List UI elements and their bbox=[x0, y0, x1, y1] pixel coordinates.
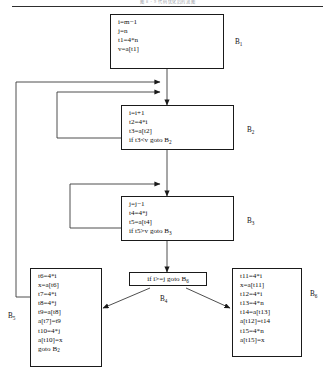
block-label-b6-sub: 6 bbox=[315, 293, 318, 299]
block-label-b6: B6 bbox=[310, 290, 317, 298]
b3-line-1: j=j−1 bbox=[129, 200, 229, 209]
block-label-b1-sub: 1 bbox=[240, 41, 243, 47]
edge-b4-b5 bbox=[103, 288, 150, 308]
basic-block-b1[interactable]: i=m−1 j=n t1=4*n v=a[t1] bbox=[110, 14, 224, 69]
b3-line-4-text: if t5>v goto B bbox=[129, 227, 169, 235]
block-label-b3: B3 bbox=[247, 217, 254, 225]
block-label-b2-sub: 2 bbox=[252, 129, 255, 135]
b3-line-2: t4=4*j bbox=[129, 209, 229, 218]
b5-line-5: t9=a[t8] bbox=[38, 308, 97, 317]
basic-block-b2[interactable]: i=i+1 t2=4*i t3=a[t2] if t3<v goto B2 bbox=[121, 105, 234, 150]
edge-b4-b6 bbox=[186, 288, 230, 308]
b6-line-2: x=a[t11] bbox=[240, 281, 297, 290]
b3-line-4: if t5>v goto B3 bbox=[129, 227, 229, 236]
b5-line-9: goto B2 bbox=[38, 345, 97, 354]
basic-block-b4[interactable]: if i>=j goto B6 bbox=[129, 272, 207, 286]
b5-line-7: t10=4*j bbox=[38, 327, 97, 336]
b3-line-4-sub: 3 bbox=[169, 230, 172, 236]
b2-line-1: i=i+1 bbox=[129, 109, 229, 118]
b6-line-5: t14=a[t13] bbox=[240, 308, 297, 317]
block-label-b3-sub: 3 bbox=[252, 220, 255, 226]
b2-line-2: t2=4*i bbox=[129, 118, 229, 127]
b5-line-8: a[t10]=x bbox=[38, 336, 97, 345]
b2-line-3: t3=a[t2] bbox=[129, 127, 229, 136]
b2-line-4-text: if t3<v goto B bbox=[129, 136, 169, 144]
b6-line-4: t13=4*n bbox=[240, 299, 297, 308]
block-label-b2: B2 bbox=[247, 126, 254, 134]
b1-line-4: v=a[t1] bbox=[118, 45, 219, 54]
b6-line-6: a[t12]=t14 bbox=[240, 317, 297, 326]
b5-line-1: t6=4*i bbox=[38, 272, 97, 281]
b1-line-2: j=n bbox=[118, 27, 219, 36]
b5-line-4: t8=4*j bbox=[38, 299, 97, 308]
block-label-b5: B5 bbox=[8, 312, 15, 320]
basic-block-b5[interactable]: t6=4*i x=a[t6] t7=4*i t8=4*j t9=a[t8] a[… bbox=[30, 268, 102, 367]
b5-line-6: a[t7]=t9 bbox=[38, 317, 97, 326]
b1-line-3: t1=4*n bbox=[118, 36, 219, 45]
b1-line-1: i=m−1 bbox=[118, 18, 219, 27]
b6-line-1: t11=4*i bbox=[240, 272, 297, 281]
flow-graph-page: 图 8 - 9 代码优化后的流图 bbox=[0, 0, 335, 379]
block-label-b4: B4 bbox=[160, 295, 167, 303]
b6-line-7: t15=4*n bbox=[240, 327, 297, 336]
b5-line-9-sub: 2 bbox=[57, 347, 60, 353]
b3-line-3: t5=a[t4] bbox=[129, 218, 229, 227]
basic-block-b3[interactable]: j=j−1 t4=4*j t5=a[t4] if t5>v goto B3 bbox=[121, 196, 234, 241]
b5-line-2: x=a[t6] bbox=[38, 281, 97, 290]
block-label-b5-sub: 5 bbox=[13, 315, 16, 321]
b6-line-3: t12=4*i bbox=[240, 290, 297, 299]
b4-line-1-text: if i>=j goto B bbox=[147, 275, 186, 283]
b2-line-4: if t3<v goto B2 bbox=[129, 136, 229, 145]
b2-line-4-sub: 2 bbox=[169, 139, 172, 145]
b6-line-8: a[t15]=x bbox=[240, 336, 297, 345]
b5-line-3: t7=4*i bbox=[38, 290, 97, 299]
b4-line-1: if i>=j goto B6 bbox=[136, 275, 200, 284]
b4-line-1-sub: 6 bbox=[186, 278, 189, 284]
block-label-b1: B1 bbox=[235, 38, 242, 46]
block-label-b4-sub: 4 bbox=[165, 298, 168, 304]
basic-block-b6[interactable]: t11=4*i x=a[t11] t12=4*i t13=4*n t14=a[t… bbox=[232, 268, 302, 357]
b5-line-9-text: goto B bbox=[38, 345, 57, 353]
